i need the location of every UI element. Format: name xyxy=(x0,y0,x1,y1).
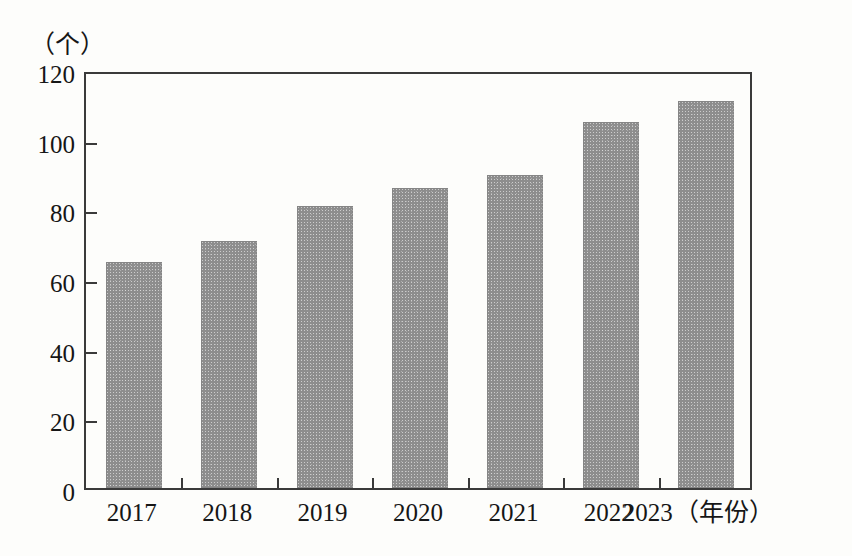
x-tick-mark xyxy=(181,478,183,488)
bar-chart-figure: （个） 020406080100120 20172018201920202021… xyxy=(0,0,852,556)
y-tick-mark xyxy=(86,421,97,423)
bar-2019 xyxy=(297,206,353,488)
x-axis-label-2020: 2020 xyxy=(393,500,443,525)
x-axis-label-text: 2017 xyxy=(107,499,157,526)
bar-2022 xyxy=(583,122,639,488)
y-tick-label: 120 xyxy=(38,62,76,87)
x-axis-label-2018: 2018 xyxy=(202,500,252,525)
x-axis-label-text: 2019 xyxy=(298,499,348,526)
y-tick-label: 20 xyxy=(50,410,75,435)
x-axis-unit-label: （年份） xyxy=(674,499,774,526)
y-tick-label: 0 xyxy=(63,480,76,505)
plot-area: 020406080100120 xyxy=(86,74,750,488)
bar-2017 xyxy=(106,262,162,488)
y-tick-mark xyxy=(86,352,97,354)
y-tick-label: 80 xyxy=(50,201,75,226)
x-axis-label-text: 2023 xyxy=(623,499,673,526)
bar-2020 xyxy=(392,188,448,488)
y-tick-label: 40 xyxy=(50,340,75,365)
plot-frame: 020406080100120 xyxy=(84,72,752,490)
x-axis-label-2019: 2019 xyxy=(298,500,348,525)
bar-2023 xyxy=(678,101,734,488)
x-axis-label-text: 2018 xyxy=(202,499,252,526)
x-axis-label-2017: 2017 xyxy=(107,500,157,525)
x-axis-label-2021: 2021 xyxy=(488,500,538,525)
x-axis-label-2023: 2023（年份） xyxy=(623,500,774,525)
y-tick-label: 100 xyxy=(38,131,76,156)
x-tick-mark xyxy=(563,478,565,488)
x-tick-mark xyxy=(372,478,374,488)
y-tick-mark xyxy=(86,212,97,214)
y-tick-mark xyxy=(86,282,97,284)
x-axis-label-text: 2021 xyxy=(488,499,538,526)
y-tick-label: 60 xyxy=(50,271,75,296)
bar-2021 xyxy=(487,175,543,489)
y-axis-unit-label: （个） xyxy=(30,24,105,60)
x-tick-mark xyxy=(659,478,661,488)
bar-2018 xyxy=(201,241,257,488)
y-tick-mark xyxy=(86,143,97,145)
x-axis-label-text: 2020 xyxy=(393,499,443,526)
x-tick-mark xyxy=(277,478,279,488)
x-tick-mark xyxy=(468,478,470,488)
